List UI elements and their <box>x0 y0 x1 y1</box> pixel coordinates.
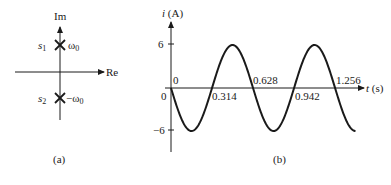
x-tick-0-314: 0.314 <box>212 90 237 102</box>
pole-s2-value: −ω0 <box>66 92 83 106</box>
x-tick-0-628: 0.628 <box>253 74 278 86</box>
caption-a: (a) <box>53 153 66 166</box>
re-axis-label: Re <box>106 66 118 78</box>
pole-s1-label: s1 <box>38 39 46 53</box>
x-axis-label: t (s) <box>366 82 384 95</box>
current-waveform-plot: i (A) t (s) 6 0 −6 0 0.314 0.628 0.942 1… <box>153 7 384 166</box>
pole-s2-label: s2 <box>38 92 46 106</box>
x-tick-0: 0 <box>173 74 179 86</box>
x-tick-1-256: 1.256 <box>336 74 361 86</box>
pole-s1-value: ω0 <box>68 39 79 53</box>
im-axis-label: Im <box>54 10 67 22</box>
y-tick-6: 6 <box>158 38 164 50</box>
x-tick-0-942: 0.942 <box>295 90 320 102</box>
caption-b: (b) <box>273 153 286 166</box>
y-axis-label: i (A) <box>162 7 183 20</box>
figure-canvas: Im Re s1 ω0 s2 −ω0 (a) i (A) t (s) 6 0 −… <box>0 0 391 185</box>
y-tick-neg6: −6 <box>153 124 165 136</box>
y-tick-0: 0 <box>161 90 167 102</box>
pole-zero-plot: Im Re s1 ω0 s2 −ω0 (a) <box>15 10 118 166</box>
